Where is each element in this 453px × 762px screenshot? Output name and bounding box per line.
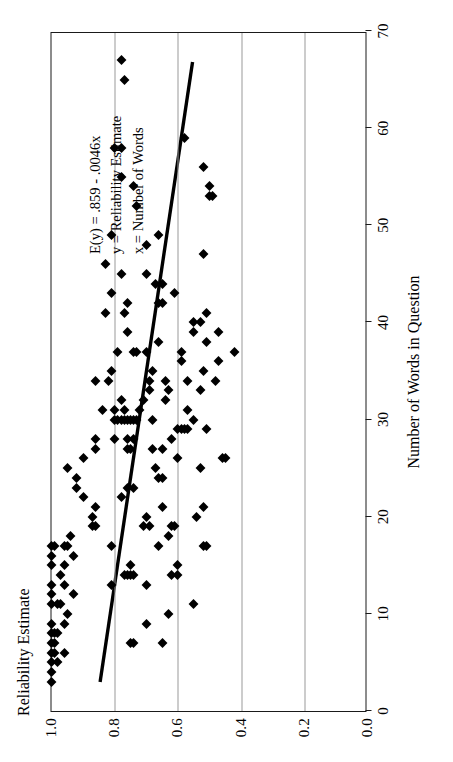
scatter-point xyxy=(56,570,66,580)
scatter-point xyxy=(182,376,192,386)
scatter-point xyxy=(46,551,56,561)
y-axis-title: Reliability Estimate xyxy=(14,588,32,716)
scatter-point xyxy=(153,230,163,240)
scatter-point xyxy=(46,560,56,570)
scatter-point xyxy=(188,415,198,425)
scatter-point xyxy=(201,308,211,318)
x-axis-tick xyxy=(365,127,371,128)
x-axis-tick xyxy=(365,30,371,31)
scatter-point xyxy=(147,415,157,425)
scatter-point xyxy=(90,444,100,454)
equation-annotation: E(y) = .859 - .0046x y = Reliability Est… xyxy=(84,116,148,254)
scatter-point xyxy=(157,279,167,289)
scatter-point xyxy=(109,405,119,415)
scatter-point xyxy=(195,463,205,473)
scatter-point xyxy=(163,385,173,395)
scatter-point xyxy=(103,376,113,386)
scatter-point xyxy=(195,385,205,395)
scatter-point xyxy=(201,424,211,434)
scatter-point xyxy=(78,492,88,502)
scatter-point xyxy=(163,609,173,619)
scatter-point xyxy=(90,502,100,512)
scatter-point xyxy=(128,483,138,493)
scatter-point xyxy=(229,347,239,357)
x-axis-tick xyxy=(365,419,371,420)
scatter-point xyxy=(119,308,129,318)
scatter-point xyxy=(210,376,220,386)
x-tick-label: 70 xyxy=(374,24,391,39)
scatter-point xyxy=(172,453,182,463)
scatter-point xyxy=(201,337,211,347)
scatter-point xyxy=(182,405,192,415)
scatter-point xyxy=(119,405,129,415)
x-tick-label: 20 xyxy=(374,509,391,524)
y-tick-label: 0.0 xyxy=(359,718,376,737)
scatter-point xyxy=(147,444,157,454)
scatter-point xyxy=(141,619,151,629)
scatter-point xyxy=(188,599,198,609)
gridline xyxy=(304,33,305,711)
scatter-point xyxy=(59,580,69,590)
scatter-point xyxy=(116,492,126,502)
scatter-point xyxy=(100,259,110,269)
scatter-point xyxy=(62,609,72,619)
x-tick-label: 40 xyxy=(374,315,391,330)
x-axis-tick xyxy=(365,710,371,711)
scatter-point xyxy=(141,347,151,357)
scatter-point xyxy=(157,444,167,454)
x-axis-tick xyxy=(365,613,371,614)
scatter-point xyxy=(144,376,154,386)
x-axis-tick xyxy=(365,516,371,517)
scatter-point xyxy=(214,356,224,366)
gridline xyxy=(177,33,178,711)
x-tick-label: 30 xyxy=(374,412,391,427)
scatter-point xyxy=(150,463,160,473)
scatter-point xyxy=(46,589,56,599)
scatter-point xyxy=(46,667,56,677)
scatter-point xyxy=(97,405,107,415)
scatter-point xyxy=(157,502,167,512)
scatter-point xyxy=(90,376,100,386)
scatter-point xyxy=(71,483,81,493)
scatter-point xyxy=(191,512,201,522)
scatter-point xyxy=(214,327,224,337)
scatter-point xyxy=(198,502,208,512)
scatter-point xyxy=(147,366,157,376)
scatter-point xyxy=(46,677,56,687)
scatter-point xyxy=(198,162,208,172)
scatter-point xyxy=(179,133,189,143)
scatter-point xyxy=(122,327,132,337)
scatter-point xyxy=(153,541,163,551)
scatter-point xyxy=(138,395,148,405)
scatter-point xyxy=(204,181,214,191)
y-tick-label: 0.4 xyxy=(232,718,249,737)
y-tick-label: 1.0 xyxy=(43,718,60,737)
y-tick-label: 0.8 xyxy=(106,718,123,737)
scatter-point xyxy=(141,269,151,279)
annotation-line-2: y = Reliability Estimate xyxy=(105,116,126,254)
scatter-point xyxy=(116,269,126,279)
scatter-point xyxy=(59,619,69,629)
scatter-point xyxy=(116,55,126,65)
scatter-point xyxy=(62,463,72,473)
chart-stage: Reliability Estimate Number of Words in … xyxy=(0,0,453,762)
scatter-point xyxy=(153,337,163,347)
scatter-point xyxy=(188,327,198,337)
x-tick-label: 60 xyxy=(374,121,391,136)
x-tick-label: 50 xyxy=(374,218,391,233)
x-axis-title: Number of Words in Question xyxy=(404,275,422,468)
gridline xyxy=(241,33,242,711)
scatter-point xyxy=(90,434,100,444)
scatter-point xyxy=(119,75,129,85)
scatter-point xyxy=(78,453,88,463)
scatter-point xyxy=(109,434,119,444)
scatter-point xyxy=(198,366,208,376)
scatter-point xyxy=(65,531,75,541)
scatter-point xyxy=(141,580,151,590)
scatter-point xyxy=(100,308,110,318)
annotation-line-3: x = Number of Words xyxy=(127,116,148,254)
scatter-point xyxy=(198,249,208,259)
x-axis-tick xyxy=(365,224,371,225)
scatter-point xyxy=(71,473,81,483)
scatter-point xyxy=(68,589,78,599)
